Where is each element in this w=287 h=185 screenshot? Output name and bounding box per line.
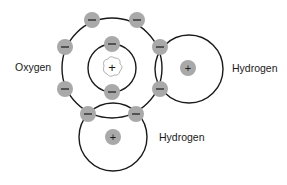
hydrogen-right-nucleus: + — [180, 60, 196, 76]
svg-text:+: + — [185, 62, 191, 74]
water-molecule-diagram: + + + — [0, 0, 287, 185]
oxygen-label: Oxygen — [15, 61, 51, 73]
hydrogen-bottom-nucleus: + — [105, 129, 121, 145]
oxygen-nucleus: + — [103, 57, 122, 77]
svg-text:+: + — [108, 60, 116, 75]
svg-text:+: + — [110, 131, 116, 143]
hydrogen-bottom-label: Hydrogen — [159, 131, 205, 143]
hydrogen-right-label: Hydrogen — [232, 62, 278, 74]
